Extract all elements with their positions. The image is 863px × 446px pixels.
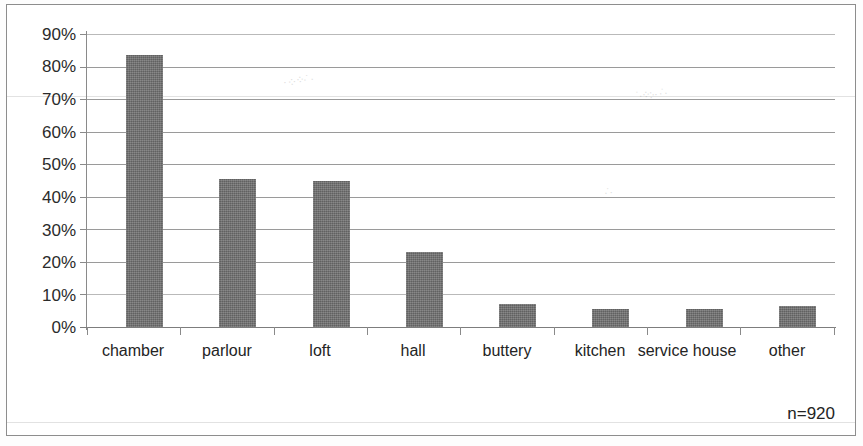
gridline-30 <box>87 229 835 230</box>
bar-parlour <box>219 179 256 327</box>
bar-kitchen <box>592 309 629 327</box>
gridline-80 <box>87 67 835 68</box>
plot-area <box>87 34 835 327</box>
y-axis-tick-label: 90% <box>4 26 76 43</box>
bar-loft <box>313 181 350 328</box>
bar-hall <box>406 252 443 327</box>
y-axis-tick-label: 30% <box>4 222 76 239</box>
gridline-70 <box>87 99 835 100</box>
y-axis-tick-label: 10% <box>4 287 76 304</box>
x-axis-line <box>80 327 836 328</box>
x-axis-tick-mark <box>274 327 275 335</box>
x-axis-tick-mark <box>180 327 181 335</box>
y-axis-tick-label: 20% <box>4 254 76 271</box>
bar-buttery <box>499 304 536 327</box>
x-axis-label-service-house: service house <box>633 341 741 361</box>
gridline-10 <box>87 294 835 295</box>
bar-chamber <box>126 55 163 327</box>
y-axis-tick-label: 70% <box>4 91 76 108</box>
gridline-20 <box>87 262 835 263</box>
y-axis-tick-label: 50% <box>4 156 76 173</box>
gridline-50 <box>87 164 835 165</box>
x-axis-tick-mark <box>834 327 835 335</box>
gridline-40 <box>87 197 835 198</box>
y-axis-tick-label: 80% <box>4 58 76 75</box>
x-axis-tick-mark <box>554 327 555 335</box>
gridline-60 <box>87 132 835 133</box>
sample-size-annotation: n=920 <box>787 404 835 424</box>
bar-chart-figure: · ·:·⁘·˙ · ˙·⁘:·· ·˙· ·˙· 90% 80% 70% 60… <box>0 0 863 446</box>
x-axis-tick-mark <box>367 327 368 335</box>
gridline-90 <box>87 34 835 35</box>
bar-service-house <box>686 309 723 327</box>
y-axis-tick-label: 0% <box>4 319 76 336</box>
y-axis-labels: 90% 80% 70% 60% 50% 40% 30% 20% 10% 0% <box>0 0 76 446</box>
x-axis-tick-mark <box>647 327 648 335</box>
y-axis-tick-label: 40% <box>4 189 76 206</box>
x-axis-tick-mark <box>740 327 741 335</box>
x-axis-tick-mark <box>87 327 88 335</box>
x-axis-label-other: other <box>727 341 847 361</box>
bar-other <box>779 306 816 327</box>
y-axis-tick-label: 60% <box>4 124 76 141</box>
scan-artifact-line <box>7 422 855 423</box>
x-axis-tick-mark <box>460 327 461 335</box>
